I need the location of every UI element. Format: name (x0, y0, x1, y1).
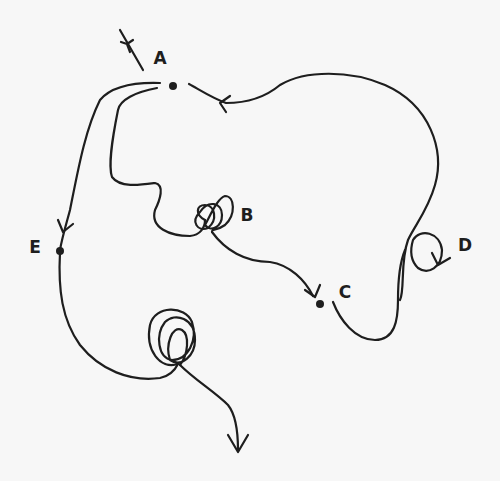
label-B: B (241, 205, 254, 225)
loops-at-B (195, 196, 232, 232)
edge-incoming-to-A (120, 30, 143, 70)
label-C: C (339, 282, 351, 302)
label-E: E (29, 237, 41, 257)
loops-near-bottom (149, 310, 195, 365)
edge-A-to-B (110, 88, 205, 236)
edge-B-to-C (212, 232, 313, 296)
trajectory-diagram (0, 0, 500, 481)
node-C (316, 300, 324, 308)
label-A: A (153, 48, 166, 68)
label-D: D (458, 235, 472, 255)
node-E (56, 247, 64, 255)
diagram-canvas: A B C D E (0, 0, 500, 481)
node-A (169, 82, 177, 90)
edge-E-to-outgoing (60, 252, 178, 379)
